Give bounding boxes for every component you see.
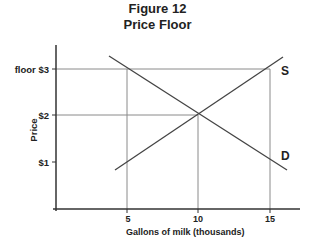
y-axis-label: Price — [28, 118, 39, 141]
x-tick-10: 10 — [193, 214, 203, 224]
x-tick-5: 5 — [125, 214, 130, 224]
y-tick-1: $1 — [38, 157, 49, 168]
demand-label: D — [281, 149, 290, 163]
y-tick-2: $2 — [38, 110, 49, 121]
x-axis-label: Gallons of milk (thousands) — [126, 227, 245, 237]
price-floor-chart: S D floor $3 $2 $1 Price 5 10 15 Gallons… — [0, 0, 315, 251]
x-tick-15: 15 — [265, 214, 275, 224]
supply-label: S — [281, 64, 289, 78]
y-tick-floor-3: floor $3 — [15, 64, 49, 75]
ticks — [52, 69, 270, 213]
